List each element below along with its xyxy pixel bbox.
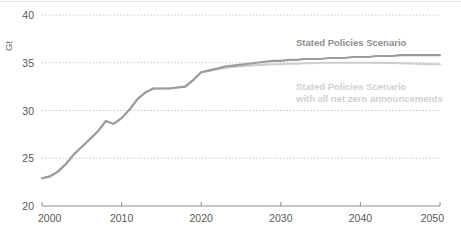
y-tick-label-20: 20 bbox=[22, 200, 34, 212]
x-tick-label-2000: 2000 bbox=[38, 212, 62, 224]
data-series-group bbox=[42, 55, 440, 178]
x-tick-label-2030: 2030 bbox=[269, 212, 293, 224]
axis-group bbox=[42, 202, 440, 206]
y-axis-tick-labels: 2025303540 bbox=[22, 9, 34, 212]
y-axis-unit-label: Gt bbox=[3, 41, 14, 51]
x-tick-label-2040: 2040 bbox=[349, 212, 373, 224]
chart-container: 2025303540 200020102020203020402050 Gt S… bbox=[0, 0, 461, 236]
series-label-stated-policies: Stated Policies Scenario bbox=[296, 37, 407, 48]
series-line-stated-policies bbox=[42, 55, 440, 178]
x-tick-label-2010: 2010 bbox=[110, 212, 134, 224]
y-tick-label-40: 40 bbox=[22, 9, 34, 21]
x-axis-tick-labels: 200020102020203020402050 bbox=[38, 212, 444, 224]
y-tick-label-25: 25 bbox=[22, 152, 34, 164]
x-tick-label-2020: 2020 bbox=[190, 212, 214, 224]
series-label-net-zero-line1: Stated Policies Scenario bbox=[296, 81, 407, 92]
y-tick-label-35: 35 bbox=[22, 57, 34, 69]
series-label-net-zero-line2: with all net zero announcements bbox=[295, 93, 443, 104]
emissions-line-chart: 2025303540 200020102020203020402050 Gt S… bbox=[0, 0, 461, 236]
y-tick-label-30: 30 bbox=[22, 105, 34, 117]
x-tick-label-2050: 2050 bbox=[421, 212, 445, 224]
